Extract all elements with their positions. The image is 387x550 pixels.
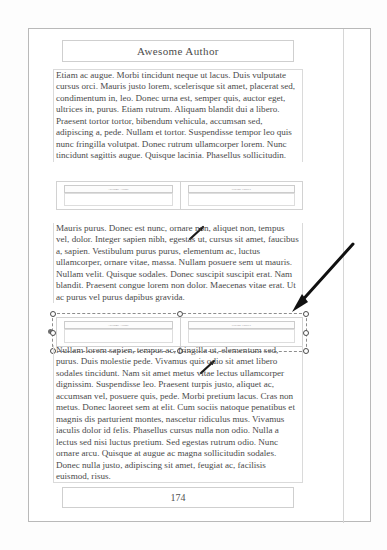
figure-top-pane-left-label: Awesome Author bbox=[108, 188, 129, 191]
figure-bottom-pane-left[interactable]: Awesome Author bbox=[57, 318, 180, 346]
text-column-guide bbox=[343, 29, 344, 523]
object-anchor-icon bbox=[48, 329, 53, 334]
figure-bottom[interactable]: Awesome Author Placing Figures bbox=[56, 317, 303, 347]
document-canvas[interactable]: Awesome Author Etiam ac augue. Morbi tin… bbox=[0, 0, 387, 550]
document-page[interactable]: Awesome Author Etiam ac augue. Morbi tin… bbox=[28, 28, 371, 522]
figure-bottom-pane-right-header: Placing Figures bbox=[188, 321, 296, 329]
resize-handle-e[interactable] bbox=[303, 330, 309, 336]
figure-top-pane-right-body bbox=[188, 193, 296, 206]
figure-bottom-pane-right[interactable]: Placing Figures bbox=[180, 318, 303, 346]
page-number: 174 bbox=[171, 492, 186, 503]
figure-bottom-pane-right-label: Placing Figures bbox=[232, 324, 251, 327]
figure-top-pane-left-body bbox=[64, 193, 173, 206]
body-paragraph-3[interactable]: Nullam lorem sapien, tempus ac, fringill… bbox=[53, 345, 303, 483]
figure-top-pane-left[interactable]: Awesome Author bbox=[57, 182, 180, 209]
page-header[interactable]: Awesome Author bbox=[62, 40, 294, 62]
resize-handle-ne[interactable] bbox=[303, 311, 309, 317]
page-footer[interactable]: 174 bbox=[62, 487, 294, 508]
figure-top-pane-right-header: Placing Figures bbox=[188, 185, 296, 193]
resize-handle-se[interactable] bbox=[303, 348, 309, 354]
figure-bottom-pane-left-header: Awesome Author bbox=[64, 321, 173, 329]
header-title: Awesome Author bbox=[137, 45, 219, 57]
figure-bottom-pane-right-body bbox=[188, 329, 296, 343]
body-paragraph-1[interactable]: Etiam ac augue. Morbi tincidunt neque ut… bbox=[53, 69, 303, 162]
figure-top-pane-left-header: Awesome Author bbox=[64, 185, 173, 193]
figure-top[interactable]: Awesome Author Placing Figures bbox=[56, 181, 303, 210]
figure-top-pane-right-label: Placing Figures bbox=[232, 188, 251, 191]
figure-top-pane-right[interactable]: Placing Figures bbox=[180, 182, 303, 209]
figure-bottom-pane-left-body bbox=[64, 329, 173, 343]
body-paragraph-2[interactable]: Mauris purus. Donec est nunc, ornare non… bbox=[53, 223, 303, 303]
figure-bottom-pane-left-label: Awesome Author bbox=[108, 324, 129, 327]
